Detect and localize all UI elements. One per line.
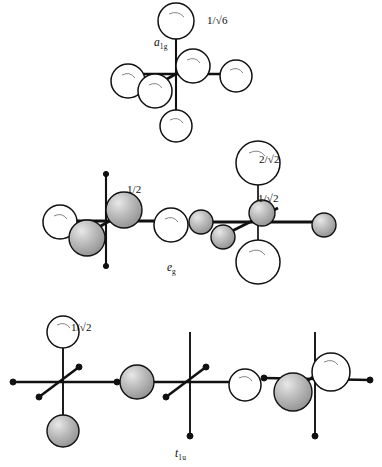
- symmetry-label-a1g-subscript: 1g: [160, 42, 168, 51]
- coefficient-eg-1: 1/2: [127, 184, 141, 195]
- coefficient-eg-2-axial: 2/√2: [259, 154, 280, 165]
- coefficient-t1u-1: 1/√2: [71, 322, 92, 333]
- salc-group-t1u-3: [250, 332, 382, 440]
- symmetry-label-a1g: a1g: [154, 37, 168, 51]
- salc-group-t1u-2: [112, 332, 252, 440]
- ligand-sphere-light: [312, 353, 350, 391]
- a1g-diagram: [108, 2, 258, 142]
- symmetry-label-t1u-subscript: 1u: [178, 453, 186, 462]
- eg-2-diagram: [190, 140, 370, 280]
- coefficient-eg-2-equatorial: 1/√2: [258, 193, 279, 204]
- ligand-sphere-shaded: [274, 373, 312, 411]
- symmetry-label-eg: eg: [167, 262, 176, 276]
- ligand-sphere-shaded: [47, 415, 79, 447]
- symmetry-label-eg-subscript: g: [172, 267, 176, 276]
- eg-1-diagram: [38, 166, 198, 276]
- t1u-3-diagram: [250, 332, 382, 440]
- salc-figure: 1/√6 a1g: [0, 0, 382, 467]
- coefficient-a1g: 1/√6: [207, 15, 228, 26]
- t1u-2-diagram: [112, 332, 252, 440]
- salc-group-eg-2: [190, 140, 370, 280]
- salc-group-eg-1: [38, 166, 198, 276]
- ligand-sphere-shaded: [120, 365, 154, 399]
- salc-group-a1g-1: [108, 2, 258, 142]
- symmetry-label-t1u: t1u: [175, 448, 186, 462]
